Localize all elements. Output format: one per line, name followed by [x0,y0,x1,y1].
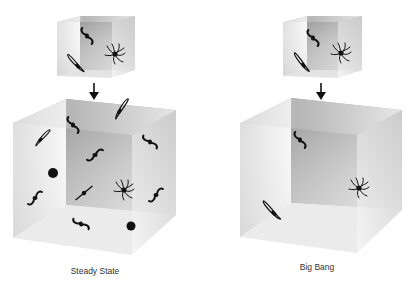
down-arrow-icon [316,83,326,100]
big-bang-large-cube [240,98,402,253]
down-arrow-icon [89,83,99,100]
steady-state-caption: Steady State [35,266,155,276]
galaxy-dot-icon [48,168,58,178]
steady-state-diagram [13,16,176,255]
big-bang-diagram [240,16,402,253]
steady-state-small-cube [57,16,135,78]
cosmology-diagram [0,0,413,282]
galaxy-dot-icon [127,222,136,231]
big-bang-caption: Big Bang [257,262,377,272]
steady-state-large-cube [13,99,176,255]
big-bang-small-cube [283,16,362,78]
